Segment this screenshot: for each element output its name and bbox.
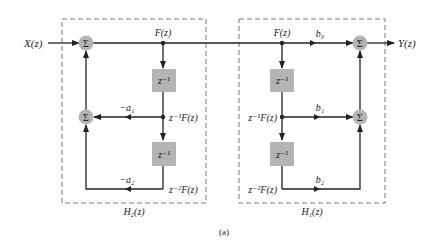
svg-text:z⁻¹: z⁻¹ — [275, 149, 288, 160]
label-z1f-left: z⁻¹F(z) — [168, 112, 198, 124]
svg-text:z⁻¹: z⁻¹ — [157, 75, 170, 86]
svg-text:Σ: Σ — [357, 38, 363, 49]
input-label: X(z) — [23, 37, 43, 50]
label-f-left: F(z) — [154, 27, 172, 39]
svg-text:Σ: Σ — [83, 112, 89, 123]
summer-2: Σ — [79, 110, 94, 125]
h1-block-label: H₁(z) — [300, 206, 323, 218]
label-z2f-right: z⁻²F(z) — [247, 184, 277, 196]
label-f-right: F(z) — [273, 27, 291, 39]
summer-3: Σ — [353, 36, 368, 51]
gain-b0: b₀ — [316, 28, 325, 39]
delay-block-left-2: z⁻¹ — [152, 142, 176, 166]
gain-b2: b₂ — [316, 174, 325, 185]
label-z2f-left: z⁻²F(z) — [168, 184, 198, 196]
svg-text:Σ: Σ — [83, 38, 89, 49]
direct-form-ii-diagram: Σ Σ Σ Σ z⁻¹ z⁻¹ z⁻¹ z⁻¹ X(z) Y(z) F(z) z… — [0, 0, 447, 247]
node-z1f-left — [161, 115, 165, 119]
node-f-left — [161, 41, 165, 45]
summer-1: Σ — [79, 36, 94, 51]
node-f-right — [280, 41, 284, 45]
svg-text:Σ: Σ — [357, 112, 363, 123]
gain-minus-a1: −a₁ — [119, 102, 134, 113]
gain-b1: b₁ — [316, 102, 324, 113]
delay-block-right-2: z⁻¹ — [270, 142, 294, 166]
svg-text:z⁻¹: z⁻¹ — [157, 149, 170, 160]
output-label: Y(z) — [398, 37, 416, 50]
h2-block-label: H₂(z) — [122, 206, 145, 218]
figure-caption: (a) — [219, 227, 229, 237]
svg-text:z⁻¹: z⁻¹ — [275, 75, 288, 86]
label-z1f-right: z⁻¹F(z) — [247, 112, 277, 124]
summer-4: Σ — [353, 110, 368, 125]
gain-minus-a2: −a₂ — [119, 174, 135, 185]
delay-block-right-1: z⁻¹ — [270, 69, 294, 92]
node-z1f-right — [280, 115, 284, 119]
delay-block-left-1: z⁻¹ — [152, 69, 176, 92]
